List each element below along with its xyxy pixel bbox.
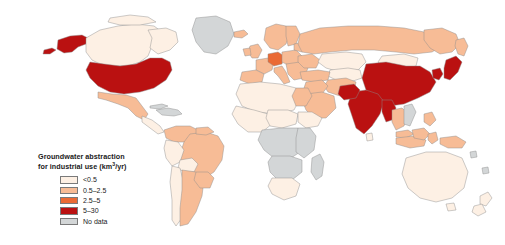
region-alaska: [57, 35, 88, 53]
region-mexico: [98, 92, 148, 120]
legend-label-lt-0-5: <0.5: [83, 175, 97, 185]
legend-item-no-data[interactable]: No data: [60, 217, 178, 227]
region-sulawesi: [428, 132, 438, 144]
region-philippines: [424, 112, 436, 126]
legend-swatch-0-5-to-2-5: [60, 187, 78, 194]
region-australia: [402, 152, 468, 202]
legend-title-line2: for industrial use (km3/yr): [38, 162, 178, 172]
region-aleutians: [43, 48, 56, 54]
legend-label-5-to-30: 5–30: [83, 206, 99, 216]
region-tasmania: [446, 203, 456, 211]
world-map-figure: Groundwater abstraction for industrial u…: [0, 0, 505, 245]
region-east-africa: [296, 128, 316, 158]
legend-items: <0.5 0.5–2.5 2.5–5 5–30 No data: [60, 175, 178, 226]
region-new-zealand-south: [472, 204, 486, 216]
legend-item-2-5-to-5[interactable]: 2.5–5: [60, 196, 178, 206]
region-russia: [298, 26, 442, 54]
legend-label-0-5-to-2-5: 0.5–2.5: [83, 186, 106, 196]
region-turkey: [300, 70, 330, 82]
legend-swatch-5-to-30: [60, 207, 78, 214]
legend-title-line1: Groundwater abstraction: [38, 152, 178, 162]
legend-label-no-data: No data: [83, 217, 108, 227]
region-borneo: [412, 128, 430, 140]
region-papua-new-guinea: [440, 136, 466, 148]
legend-title: Groundwater abstraction for industrial u…: [38, 152, 178, 171]
region-russia-kamchatka: [455, 38, 468, 56]
legend-item-lt-0-5[interactable]: <0.5: [60, 175, 178, 185]
legend-swatch-no-data: [60, 218, 78, 225]
region-iceland: [234, 30, 248, 38]
region-greenland: [192, 16, 234, 54]
legend-label-2-5-to-5: 2.5–5: [83, 196, 101, 206]
region-vietnam: [404, 104, 416, 126]
map-legend: Groundwater abstraction for industrial u…: [38, 152, 178, 227]
region-central-america: [142, 116, 164, 134]
region-south-africa: [268, 178, 300, 200]
region-ireland: [243, 48, 251, 56]
region-canada-east: [148, 28, 178, 54]
legend-item-5-to-30[interactable]: 5–30: [60, 206, 178, 216]
legend-item-0-5-to-2-5[interactable]: 0.5–2.5: [60, 186, 178, 196]
legend-swatch-2-5-to-5: [60, 197, 78, 204]
legend-title-line2-pre: for industrial use (km: [38, 162, 112, 171]
legend-swatch-lt-0-5: [60, 176, 78, 183]
region-sri-lanka: [366, 133, 373, 141]
region-canada-arctic-isl: [108, 15, 156, 25]
region-sahel: [266, 110, 298, 128]
region-pacific-islands: [470, 151, 477, 158]
region-southern-africa-gray: [268, 156, 302, 180]
region-korea: [432, 68, 443, 80]
region-japan: [444, 56, 462, 80]
region-fiji: [482, 167, 489, 174]
region-madagascar: [311, 154, 324, 180]
legend-title-line2-post: /yr): [115, 162, 126, 171]
